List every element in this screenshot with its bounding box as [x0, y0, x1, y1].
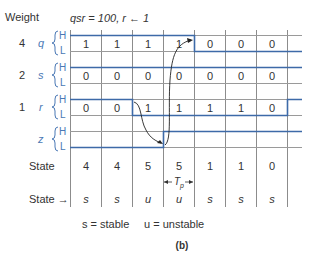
- state-value: 5: [145, 160, 151, 172]
- waveform-z: [70, 132, 302, 148]
- condition-label: qsr = 100, r ← 1: [70, 12, 149, 24]
- stability-value: s: [114, 193, 120, 205]
- q-value: 1: [145, 38, 151, 50]
- stability-value: s: [83, 193, 89, 205]
- s-value: 0: [176, 70, 182, 82]
- high-label-s: H: [59, 62, 66, 74]
- r-value: 1: [238, 102, 244, 114]
- s-value: 0: [114, 70, 120, 82]
- signal-label-q: q: [38, 37, 44, 49]
- q-value: 0: [269, 38, 275, 50]
- s-value: 0: [145, 70, 151, 82]
- weight-heading: Weight: [5, 11, 39, 23]
- waveform-q: [70, 36, 302, 52]
- legend-stable: s = stable: [82, 218, 129, 230]
- q-value: 1: [83, 38, 89, 50]
- weight-r: 1: [19, 101, 25, 113]
- arrow-z-to-q: [165, 40, 191, 145]
- waveform-r: [70, 100, 302, 116]
- stability-value: s: [269, 193, 275, 205]
- stability-value: s: [207, 193, 213, 205]
- state-value: 1: [238, 160, 244, 172]
- r-value: 1: [145, 102, 151, 114]
- low-label-s: L: [60, 77, 66, 89]
- state-value: 4: [83, 160, 89, 172]
- s-value: 0: [207, 70, 213, 82]
- high-label-q: H: [59, 30, 66, 42]
- q-value: 0: [238, 38, 244, 50]
- stability-value: s: [238, 193, 244, 205]
- state-value: 1: [207, 160, 213, 172]
- signal-label-z: z: [38, 133, 44, 145]
- r-value: 1: [176, 102, 182, 114]
- stability-value: u: [176, 193, 182, 205]
- q-value: 0: [207, 38, 213, 50]
- r-value: 0: [114, 102, 120, 114]
- signal-label-s: s: [38, 69, 44, 81]
- tp-label: Tp: [174, 176, 184, 192]
- figure-caption: (b): [176, 240, 189, 252]
- state-value: 4: [114, 160, 120, 172]
- q-value: 1: [176, 38, 182, 50]
- state-label: State: [29, 160, 55, 172]
- stability-value: u: [145, 193, 151, 205]
- weight-q: 4: [19, 37, 25, 49]
- state-value: 0: [269, 160, 275, 172]
- r-value: 0: [269, 102, 275, 114]
- arrowhead-q: [187, 38, 193, 43]
- s-value: 0: [83, 70, 89, 82]
- low-label-q: L: [60, 45, 66, 57]
- weight-s: 2: [19, 69, 25, 81]
- legend-unstable: u = unstable: [144, 218, 204, 230]
- braces: [52, 31, 58, 151]
- r-value: 0: [83, 102, 89, 114]
- r-value: 1: [207, 102, 213, 114]
- s-value: 0: [238, 70, 244, 82]
- low-label-z: L: [60, 141, 66, 153]
- high-label-z: H: [59, 126, 66, 138]
- low-label-r: L: [60, 109, 66, 121]
- s-value: 0: [269, 70, 275, 82]
- signal-label-r: r: [39, 101, 43, 113]
- high-label-r: H: [59, 94, 66, 106]
- state-value: 5: [176, 160, 182, 172]
- q-value: 1: [114, 38, 120, 50]
- stability-label: State →: [29, 193, 69, 205]
